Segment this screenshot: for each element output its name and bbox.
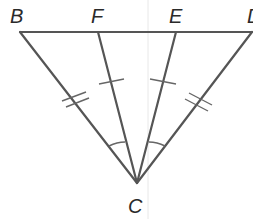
segment-dc	[137, 32, 252, 183]
angle-arc-ecd	[149, 142, 165, 146]
label-e: E	[169, 5, 183, 27]
label-b: B	[10, 5, 23, 27]
segment-bc	[20, 32, 137, 183]
angle-arc-bcf	[109, 142, 125, 146]
label-d: D	[247, 5, 253, 27]
segment-fc	[98, 32, 137, 183]
label-c: C	[128, 195, 143, 217]
segment-ec	[137, 32, 176, 183]
triangle-diagram: B F E D C	[0, 0, 253, 219]
label-f: F	[91, 5, 105, 27]
